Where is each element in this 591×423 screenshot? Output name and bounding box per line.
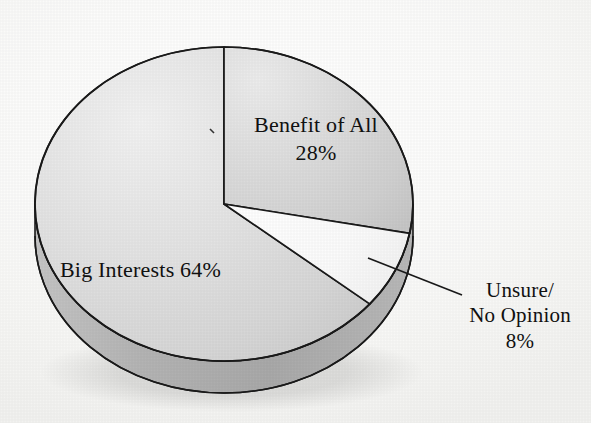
slice-label-unsure-value: 8% [455, 329, 585, 354]
pie-chart: Benefit of All 28% Big Interests 64% Uns… [0, 0, 591, 423]
slice-label-unsure-no-opinion: Unsure/ No Opinion 8% [455, 278, 585, 353]
slice-label-benefit-of-all-value: 28% [228, 140, 404, 166]
slice-label-unsure-line1: Unsure/ [455, 278, 585, 303]
slice-label-benefit-of-all-name: Benefit of All [254, 112, 378, 137]
pie-chart-graphic [0, 0, 591, 423]
slice-label-big-interests-text: Big Interests 64% [60, 257, 221, 282]
slice-label-big-interests: Big Interests 64% [60, 257, 221, 283]
slice-label-benefit-of-all: Benefit of All 28% [228, 112, 404, 166]
slice-label-unsure-line2: No Opinion [455, 303, 585, 328]
